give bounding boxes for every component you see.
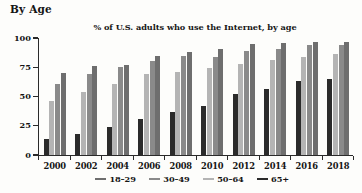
legend-swatch-icon: [257, 178, 268, 181]
bar: [213, 57, 218, 155]
legend-item[interactable]: 30–49: [149, 174, 190, 184]
chart-legend: 18–2930–4950–6465+: [0, 174, 362, 184]
legend-swatch-icon: [95, 178, 106, 181]
bar: [270, 60, 275, 155]
bar: [181, 56, 186, 155]
bar: [81, 92, 86, 155]
bar-group: [75, 38, 97, 155]
bar: [218, 49, 223, 155]
y-tick-label: 100: [0, 34, 31, 42]
x-tick: [227, 156, 228, 160]
x-tick: [101, 156, 102, 160]
legend-label: 30–49: [163, 174, 189, 184]
bar-group: [201, 38, 223, 155]
bar: [313, 42, 318, 155]
legend-item[interactable]: 50–64: [203, 174, 244, 184]
bar: [264, 89, 269, 155]
bar: [170, 112, 175, 155]
bar: [327, 79, 332, 155]
y-tick-label: 50: [0, 92, 31, 100]
bar: [276, 49, 281, 155]
legend-item[interactable]: 65+: [257, 174, 289, 184]
bar: [244, 51, 249, 155]
bar: [238, 64, 243, 155]
legend-swatch-icon: [149, 178, 160, 181]
y-tick-label: 75: [0, 63, 31, 71]
bar: [155, 56, 160, 155]
bar: [87, 74, 92, 155]
bar: [107, 127, 112, 155]
x-tick: [164, 156, 165, 160]
bar: [201, 106, 206, 155]
bar: [250, 44, 255, 155]
bar: [207, 68, 212, 155]
bar: [296, 81, 301, 155]
bar-group: [170, 38, 192, 155]
bar: [118, 67, 123, 155]
bar-group: [327, 38, 349, 155]
bar: [281, 43, 286, 155]
bar-group: [296, 38, 318, 155]
x-tick: [196, 156, 197, 160]
legend-label: 50–64: [217, 174, 243, 184]
bar: [124, 65, 129, 155]
bar-group: [44, 38, 66, 155]
legend-swatch-icon: [203, 178, 214, 181]
bar: [144, 74, 149, 155]
bar: [44, 139, 49, 155]
bar: [307, 45, 312, 155]
legend-label: 65+: [271, 174, 289, 184]
bar: [339, 45, 344, 155]
bar-chart: 0255075100 20002002200420062008201020122…: [0, 0, 362, 193]
x-tick: [259, 156, 260, 160]
bar: [75, 134, 80, 155]
x-tick: [290, 156, 291, 160]
bar: [344, 42, 349, 155]
legend-label: 18–29: [109, 174, 135, 184]
bar: [138, 119, 143, 155]
bar-group: [138, 38, 160, 155]
bar: [49, 101, 54, 155]
bar: [61, 73, 66, 155]
bar: [233, 94, 238, 155]
bars-layer: [38, 38, 353, 155]
legend-item[interactable]: 18–29: [95, 174, 136, 184]
bar: [175, 72, 180, 155]
x-tick: [353, 156, 354, 160]
bar-group: [264, 38, 286, 155]
x-tick: [70, 156, 71, 160]
bar: [301, 57, 306, 155]
bar-group: [233, 38, 255, 155]
y-tick-label: 0: [0, 151, 31, 159]
x-tick-label: 2018: [318, 161, 358, 171]
bar: [112, 84, 117, 155]
bar: [187, 52, 192, 155]
x-tick: [133, 156, 134, 160]
x-tick: [38, 156, 39, 160]
y-tick-label: 25: [0, 121, 31, 129]
bar-group: [107, 38, 129, 155]
bar: [92, 66, 97, 155]
bar: [150, 61, 155, 155]
x-tick: [322, 156, 323, 160]
bar: [333, 54, 338, 155]
bar: [55, 84, 60, 155]
